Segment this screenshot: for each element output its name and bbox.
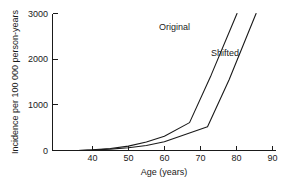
- chart-figure: 0 1000 2000 3000 40 50 60 70 80 90 Age (…: [0, 0, 293, 183]
- data-series-group: [78, 14, 256, 151]
- x-tick-label-80: 80: [231, 153, 241, 163]
- x-tick-labels: 40 50 60 70 80 90: [87, 153, 277, 163]
- y-tick-labels: 0 1000 2000 3000: [28, 9, 48, 156]
- series-label-original: Original: [159, 22, 190, 32]
- x-axis-title: Age (years): [141, 167, 188, 177]
- y-tick-label-3000: 3000: [28, 9, 48, 19]
- y-tick-marks: [53, 14, 58, 151]
- x-tick-label-90: 90: [267, 153, 277, 163]
- curve-original: [78, 14, 237, 151]
- chart-plot-svg: 0 1000 2000 3000 40 50 60 70 80 90 Age (…: [0, 0, 293, 183]
- axes-group: [53, 14, 276, 151]
- y-axis-title: Incidence per 100 000 person-years: [10, 9, 20, 154]
- axis-lines: [53, 14, 276, 151]
- x-tick-label-70: 70: [195, 153, 205, 163]
- x-tick-label-60: 60: [159, 153, 169, 163]
- series-annotations: Original Shifted: [159, 22, 239, 58]
- series-label-shifted: Shifted: [211, 48, 239, 58]
- y-tick-label-0: 0: [43, 146, 48, 156]
- x-tick-label-40: 40: [87, 153, 97, 163]
- x-tick-label-50: 50: [123, 153, 133, 163]
- y-tick-label-1000: 1000: [28, 100, 48, 110]
- y-tick-label-2000: 2000: [28, 54, 48, 64]
- curve-shifted: [78, 14, 256, 151]
